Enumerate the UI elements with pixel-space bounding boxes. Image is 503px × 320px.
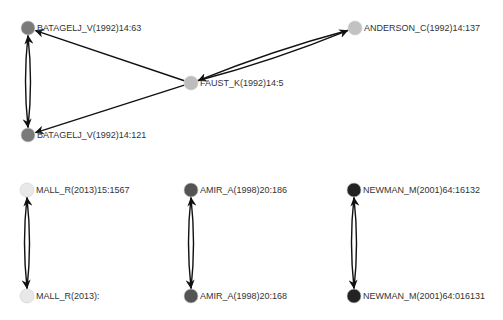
node-label: BATAGELJ_V(1992)14:63 bbox=[37, 23, 141, 33]
node-circle[interactable] bbox=[348, 21, 362, 35]
edge-arrow bbox=[36, 31, 185, 81]
graph-node[interactable]: NEWMAN_M(2001)64:016131 bbox=[347, 289, 485, 303]
edge-layer bbox=[25, 30, 357, 289]
edge-arrow bbox=[28, 36, 31, 128]
edge-arrow bbox=[36, 85, 185, 132]
node-circle[interactable] bbox=[21, 21, 35, 35]
node-label: FAUST_K(1992)14:5 bbox=[200, 78, 284, 88]
graph-node[interactable]: MALL_R(2013): bbox=[20, 289, 100, 303]
node-circle[interactable] bbox=[20, 289, 34, 303]
node-label: BATAGELJ_V(1992)14:121 bbox=[37, 130, 146, 140]
node-circle[interactable] bbox=[184, 183, 198, 197]
node-circle[interactable] bbox=[347, 289, 361, 303]
node-label: MALL_R(2013): bbox=[36, 291, 100, 301]
network-graph: BATAGELJ_V(1992)14:63BATAGELJ_V(1992)14:… bbox=[0, 0, 503, 320]
node-circle[interactable] bbox=[20, 183, 34, 197]
edge-arrow bbox=[199, 30, 349, 80]
node-label: AMIR_A(1998)20:186 bbox=[200, 185, 287, 195]
edge-arrow bbox=[25, 197, 28, 288]
edge-arrow bbox=[189, 197, 192, 288]
node-label: NEWMAN_M(2001)64:16132 bbox=[363, 185, 480, 195]
node-circle[interactable] bbox=[184, 76, 198, 90]
node-label: ANDERSON_C(1992)14:137 bbox=[364, 23, 480, 33]
node-circle[interactable] bbox=[184, 289, 198, 303]
node-label: MALL_R(2013)15:1567 bbox=[36, 185, 130, 195]
edge-arrow bbox=[27, 198, 30, 289]
edge-arrow bbox=[191, 198, 194, 289]
graph-node[interactable]: BATAGELJ_V(1992)14:63 bbox=[21, 21, 141, 35]
graph-node[interactable]: BATAGELJ_V(1992)14:121 bbox=[21, 128, 146, 142]
edge-arrow bbox=[26, 35, 29, 127]
node-circle[interactable] bbox=[21, 128, 35, 142]
node-layer: BATAGELJ_V(1992)14:63BATAGELJ_V(1992)14:… bbox=[20, 21, 485, 303]
graph-node[interactable]: AMIR_A(1998)20:186 bbox=[184, 183, 287, 197]
node-circle[interactable] bbox=[347, 183, 361, 197]
edge-arrow bbox=[198, 31, 348, 81]
node-label: AMIR_A(1998)20:168 bbox=[200, 291, 287, 301]
graph-node[interactable]: FAUST_K(1992)14:5 bbox=[184, 76, 284, 90]
graph-node[interactable]: ANDERSON_C(1992)14:137 bbox=[348, 21, 480, 35]
graph-node[interactable]: AMIR_A(1998)20:168 bbox=[184, 289, 287, 303]
edge-arrow bbox=[354, 198, 357, 289]
node-label: NEWMAN_M(2001)64:016131 bbox=[363, 291, 485, 301]
graph-node[interactable]: NEWMAN_M(2001)64:16132 bbox=[347, 183, 480, 197]
edge-arrow bbox=[352, 197, 355, 288]
graph-node[interactable]: MALL_R(2013)15:1567 bbox=[20, 183, 130, 197]
